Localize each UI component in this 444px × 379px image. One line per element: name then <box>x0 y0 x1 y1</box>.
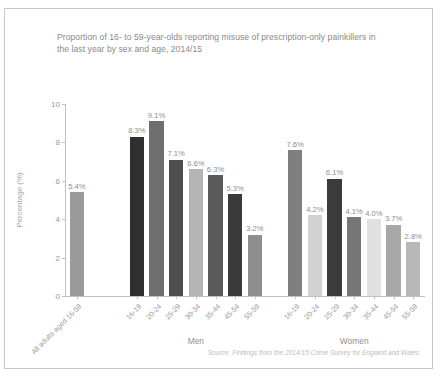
bar-value-label: 8.3% <box>128 126 145 135</box>
x-tick-mark <box>235 296 236 299</box>
bar: 6.1% <box>327 179 342 296</box>
bar: 2.8% <box>406 242 421 296</box>
bar-value-label: 4.0% <box>365 209 382 218</box>
x-tick-mark <box>315 296 316 299</box>
bar: 5.3% <box>228 194 243 296</box>
x-tick-label: 20-24 <box>143 302 162 321</box>
y-tick-label: 0 <box>56 292 60 301</box>
y-tick-mark <box>62 258 66 259</box>
bar: 4.2% <box>308 215 323 296</box>
bar-value-label: 3.7% <box>385 214 402 223</box>
x-tick-mark <box>216 296 217 299</box>
bar-value-label: 6.3% <box>207 165 224 174</box>
x-tick-label: 30-34 <box>341 302 360 321</box>
bar: 7.6% <box>288 150 303 296</box>
x-axis-line <box>65 296 425 297</box>
bar-value-label: 5.3% <box>227 184 244 193</box>
x-tick-mark <box>196 296 197 299</box>
x-tick-label: 45-54 <box>381 302 400 321</box>
y-tick-label: 10 <box>51 100 60 109</box>
y-tick-label: 4 <box>56 215 60 224</box>
bar-value-label: 5.4% <box>68 182 85 191</box>
x-tick-mark <box>413 296 414 299</box>
bar-value-label: 4.2% <box>306 205 323 214</box>
x-tick-mark <box>335 296 336 299</box>
bar: 4.0% <box>367 219 382 296</box>
bar: 7.1% <box>169 160 184 296</box>
bar: 4.1% <box>347 217 362 296</box>
y-axis-line <box>65 104 66 296</box>
bar-value-label: 6.1% <box>326 168 343 177</box>
x-tick-label: 55-59 <box>242 302 261 321</box>
y-tick-mark <box>62 104 66 105</box>
y-tick-label: 8 <box>56 138 60 147</box>
x-tick-label: 20-24 <box>302 302 321 321</box>
x-tick-label: 35-44 <box>203 302 222 321</box>
bar: 3.7% <box>386 225 401 296</box>
x-tick-mark <box>295 296 296 299</box>
x-tick-mark <box>374 296 375 299</box>
x-tick-label: 45-54 <box>222 302 241 321</box>
y-tick-mark <box>62 142 66 143</box>
plot-area: Percentage (%) 0246810 5.4%8.3%9.1%7.1%6… <box>65 104 425 296</box>
group-label: Women <box>340 336 369 346</box>
x-tick-label: All adults aged 16-59 <box>29 302 83 356</box>
y-tick-label: 6 <box>56 176 60 185</box>
source-note: Source: Findings from the 2014/15 Crime … <box>208 349 419 356</box>
bar-value-label: 4.1% <box>346 207 363 216</box>
bar: 8.3% <box>130 137 145 296</box>
x-tick-mark <box>255 296 256 299</box>
x-tick-mark <box>77 296 78 299</box>
bar: 9.1% <box>149 121 164 296</box>
y-tick-mark <box>62 296 66 297</box>
x-tick-mark <box>394 296 395 299</box>
bar: 6.3% <box>208 175 223 296</box>
y-tick-mark <box>62 219 66 220</box>
y-axis-label: Percentage (%) <box>15 172 24 228</box>
x-tick-mark <box>137 296 138 299</box>
x-tick-label: 35-44 <box>361 302 380 321</box>
x-tick-mark <box>157 296 158 299</box>
bar-value-label: 9.1% <box>148 111 165 120</box>
x-tick-label: 30-34 <box>183 302 202 321</box>
x-tick-mark <box>176 296 177 299</box>
y-tick-mark <box>62 181 66 182</box>
group-label: Men <box>188 336 204 346</box>
y-tick-label: 2 <box>56 253 60 262</box>
bar: 6.6% <box>189 169 204 296</box>
x-tick-label: 16-19 <box>124 302 143 321</box>
chart-title: Proportion of 16- to 59-year-olds report… <box>57 31 387 55</box>
x-tick-label: 25-29 <box>322 302 341 321</box>
bar-value-label: 7.6% <box>287 140 304 149</box>
x-tick-label: 25-29 <box>163 302 182 321</box>
bar: 3.2% <box>248 235 263 296</box>
bar: 5.4% <box>70 192 85 296</box>
chart-frame: Proportion of 16- to 59-year-olds report… <box>4 8 433 369</box>
bar-value-label: 6.6% <box>187 159 204 168</box>
bar-value-label: 7.1% <box>168 149 185 158</box>
x-tick-mark <box>354 296 355 299</box>
bar-value-label: 3.2% <box>246 224 263 233</box>
x-tick-label: 16-19 <box>282 302 301 321</box>
bar-value-label: 2.8% <box>405 232 422 241</box>
x-tick-label: 55-59 <box>400 302 419 321</box>
